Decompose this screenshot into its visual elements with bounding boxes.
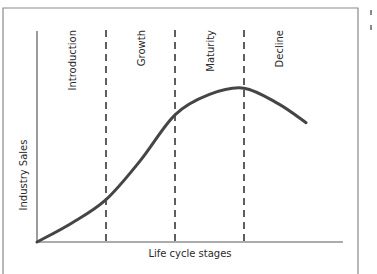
stage-label-decline: Decline <box>274 30 285 67</box>
product-life-cycle-diagram: IntroductionGrowthMaturityDecline Life c… <box>0 0 377 274</box>
stage-label-introduction: Introduction <box>67 30 78 91</box>
edge-mark <box>370 25 372 30</box>
edge-mark <box>370 10 372 15</box>
stage-label-growth: Growth <box>136 30 147 66</box>
y-axis-label: Industry Sales <box>18 140 29 211</box>
stage-label-maturity: Maturity <box>205 30 216 72</box>
sales-curve <box>37 88 306 242</box>
x-axis-label: Life cycle stages <box>148 248 231 259</box>
frame-border <box>3 8 358 274</box>
